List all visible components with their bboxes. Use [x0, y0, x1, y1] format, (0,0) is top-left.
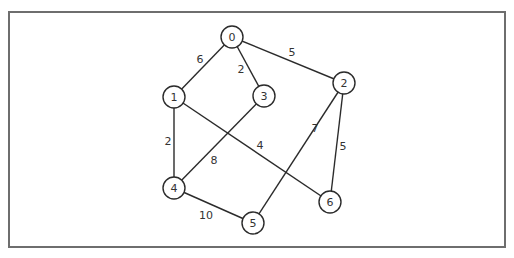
edge-weight-0-3: 2	[238, 63, 245, 76]
node-5: 5	[242, 212, 264, 234]
node-2: 2	[333, 72, 355, 94]
edge-weight-1-4: 2	[165, 135, 172, 148]
edge-weight-4-5: 10	[199, 209, 213, 222]
node-label: 0	[229, 31, 236, 44]
edge-weight-1-6: 4	[257, 139, 264, 152]
edge-weight-2-5: 7	[312, 122, 319, 135]
node-label: 5	[250, 217, 257, 230]
node-6: 6	[319, 191, 341, 213]
edge-weight-0-1: 6	[197, 53, 204, 66]
node-label: 1	[171, 91, 178, 104]
edge-weight-0-2: 5	[289, 46, 296, 59]
node-4: 4	[163, 177, 185, 199]
node-label: 4	[171, 182, 178, 195]
node-1: 1	[163, 86, 185, 108]
node-label: 2	[341, 77, 348, 90]
node-0: 0	[221, 26, 243, 48]
edge-weight-3-4: 8	[211, 154, 218, 167]
node-3: 3	[253, 85, 275, 107]
edge-weight-2-6: 5	[340, 140, 347, 153]
graph-diagram: 6252487510 0123456	[0, 0, 514, 258]
node-label: 6	[327, 196, 334, 209]
node-label: 3	[261, 90, 268, 103]
